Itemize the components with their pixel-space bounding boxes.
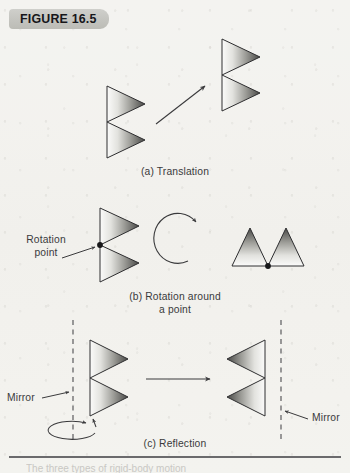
figure-container: FIGURE 16.5 (a) Translation Rotation poi…: [0, 0, 350, 473]
rotation-result-shape: [232, 228, 304, 266]
mirror-label-right: Mirror: [312, 412, 340, 423]
figure-number-label: FIGURE 16.5: [20, 12, 97, 26]
rotation-curved-arrow: [154, 213, 196, 263]
caption-rotation-line1: (b) Rotation around: [0, 291, 350, 302]
rotation-source-shape: [100, 208, 139, 282]
caption-translation: (a) Translation: [0, 166, 350, 177]
translation-arrow: [156, 86, 205, 124]
flip-ellipse-arrow-tip: [93, 419, 96, 427]
rotation-point-annotation-line1: Rotation: [14, 233, 78, 246]
mirror-label-left: Mirror: [7, 392, 35, 403]
rotation-result-point-dot: [265, 263, 271, 269]
rotation-point-dot: [97, 242, 103, 248]
footer-divider: [9, 456, 341, 458]
mirror-right-leader: [285, 411, 308, 419]
caption-rotation-line2: a point: [0, 304, 350, 315]
flip-ellipse-arrow: [48, 421, 95, 439]
rotation-point-annotation-line2: point: [14, 246, 78, 259]
footer-cut-text: The three types of rigid-body motion: [26, 463, 326, 473]
caption-reflection: (c) Reflection: [0, 438, 350, 449]
rotation-point-annotation: Rotation point: [14, 233, 78, 259]
figure-number-badge: FIGURE 16.5: [9, 9, 109, 29]
translation-result-shape: [222, 39, 260, 111]
reflection-result-shape: [227, 340, 265, 416]
reflection-source-shape: [90, 340, 128, 416]
translation-source-shape: [107, 86, 145, 158]
mirror-left-leader: [42, 392, 69, 398]
